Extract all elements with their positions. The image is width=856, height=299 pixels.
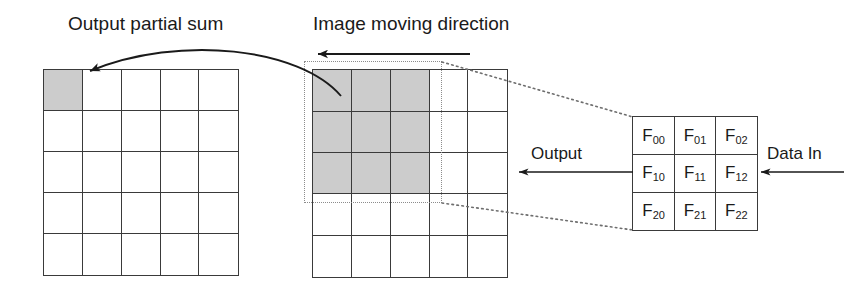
input-image-grid-cell bbox=[351, 235, 391, 278]
output-grid-cell bbox=[43, 192, 83, 235]
input-image-grid-cell bbox=[429, 193, 469, 236]
filter-cell-subscript: 20 bbox=[653, 209, 665, 221]
input-image-grid-cell bbox=[429, 152, 469, 195]
output-partial-sum-label: Output partial sum bbox=[68, 14, 223, 33]
input-image-grid-cell bbox=[351, 111, 391, 154]
filter-cell-f11: F11 bbox=[674, 154, 717, 193]
input-image-grid-cell bbox=[467, 193, 507, 236]
input-image-grid bbox=[313, 70, 507, 277]
filter-cell-subscript: 01 bbox=[694, 134, 706, 146]
filter-cell-subscript: 02 bbox=[735, 134, 747, 146]
input-image-grid-cell bbox=[429, 69, 469, 112]
input-image-grid-cell bbox=[390, 69, 430, 112]
output-grid-cell bbox=[121, 69, 161, 112]
filter-cell-f22: F22 bbox=[715, 192, 758, 231]
filter-cell-subscript: 10 bbox=[653, 171, 665, 183]
input-image-grid-cell bbox=[312, 235, 352, 278]
output-grid-cell bbox=[198, 151, 238, 194]
input-image-grid-cell bbox=[467, 111, 507, 154]
filter-cell-base: F bbox=[684, 126, 694, 146]
filter-cell-base: F bbox=[642, 126, 652, 146]
output-grid-cell bbox=[82, 151, 122, 194]
output-partial-sum-grid bbox=[44, 70, 238, 275]
input-image-grid-cell bbox=[390, 152, 430, 195]
filter-cell-f00: F00 bbox=[632, 116, 675, 155]
output-grid-cell bbox=[198, 69, 238, 112]
filter-cell-base: F bbox=[642, 163, 652, 183]
output-grid-cell bbox=[160, 233, 200, 276]
output-grid-cell bbox=[121, 233, 161, 276]
filter-cell-subscript: 11 bbox=[694, 171, 705, 183]
output-grid-cell bbox=[160, 151, 200, 194]
convolution-dataflow-diagram: Output partial sum Image moving directio… bbox=[0, 0, 856, 299]
input-image-grid-cell bbox=[390, 193, 430, 236]
output-grid-cell bbox=[160, 192, 200, 235]
input-image-grid-cell bbox=[312, 111, 352, 154]
input-image-grid-cell bbox=[467, 235, 507, 278]
filter-cell-f20: F20 bbox=[632, 192, 675, 231]
input-image-grid-cell bbox=[390, 235, 430, 278]
output-grid-cell bbox=[160, 69, 200, 112]
input-image-grid-cell bbox=[429, 235, 469, 278]
output-grid-cell bbox=[121, 192, 161, 235]
output-grid-cell bbox=[82, 233, 122, 276]
output-grid-cell bbox=[198, 233, 238, 276]
filter-cell-f21: F21 bbox=[674, 192, 717, 231]
filter-cell-subscript: 22 bbox=[735, 209, 747, 221]
output-grid-cell bbox=[121, 110, 161, 153]
filter-cell-base: F bbox=[684, 201, 694, 221]
filter-cell-f01: F01 bbox=[674, 116, 717, 155]
filter-cell-base: F bbox=[725, 126, 735, 146]
input-image-grid-cell bbox=[429, 111, 469, 154]
image-moving-direction-label: Image moving direction bbox=[313, 14, 509, 33]
output-grid-cell bbox=[198, 110, 238, 153]
data-in-label: Data In bbox=[767, 145, 822, 162]
filter-cell-f12: F12 bbox=[715, 154, 758, 193]
input-image-grid-cell bbox=[312, 193, 352, 236]
filter-cell-subscript: 00 bbox=[653, 134, 665, 146]
output-grid-cell bbox=[82, 69, 122, 112]
output-grid-cell bbox=[43, 110, 83, 153]
filter-cell-base: F bbox=[725, 201, 735, 221]
filter-cell-f02: F02 bbox=[715, 116, 758, 155]
output-grid-cell bbox=[43, 69, 83, 112]
input-image-grid-cell bbox=[351, 152, 391, 195]
output-grid-cell bbox=[43, 233, 83, 276]
output-grid-cell bbox=[82, 110, 122, 153]
output-grid-cell bbox=[198, 192, 238, 235]
input-image-grid-cell bbox=[351, 69, 391, 112]
input-image-grid-cell bbox=[467, 152, 507, 195]
output-grid-cell bbox=[121, 151, 161, 194]
filter-cell-base: F bbox=[725, 163, 735, 183]
output-grid-cell bbox=[160, 110, 200, 153]
filter-cell-subscript: 21 bbox=[694, 209, 706, 221]
input-image-grid-cell bbox=[390, 111, 430, 154]
output-grid-cell bbox=[43, 151, 83, 194]
input-image-grid-cell bbox=[312, 69, 352, 112]
filter-cell-subscript: 12 bbox=[735, 171, 747, 183]
filter-cell-base: F bbox=[684, 163, 694, 183]
input-image-grid-cell bbox=[351, 193, 391, 236]
output-grid-cell bbox=[82, 192, 122, 235]
filter-weight-grid: F00F01F02F10F11F12F20F21F22 bbox=[633, 117, 757, 230]
filter-cell-f10: F10 bbox=[632, 154, 675, 193]
input-image-grid-cell bbox=[312, 152, 352, 195]
filter-cell-base: F bbox=[642, 201, 652, 221]
input-image-grid-cell bbox=[467, 69, 507, 112]
output-label: Output bbox=[531, 145, 582, 162]
